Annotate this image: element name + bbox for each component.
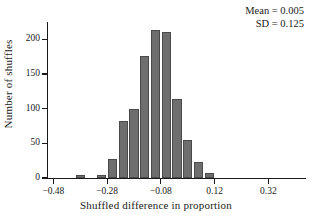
x-tick-label: 0.12 — [195, 186, 235, 196]
histogram-bar — [76, 175, 85, 178]
y-tick-label: 0 — [0, 173, 40, 183]
histogram-bar — [119, 121, 128, 178]
x-tick-mark — [160, 179, 161, 184]
x-tick-label: −0.28 — [87, 186, 127, 196]
histogram-bar — [194, 162, 203, 178]
mean-annotation: Mean = 0.005 — [245, 4, 304, 17]
histogram-bar — [205, 173, 214, 178]
histogram-bar — [108, 159, 117, 178]
x-tick-label: −0.48 — [33, 186, 73, 196]
x-tick-mark — [53, 179, 54, 184]
x-axis-title: Shuffled difference in proportion — [0, 199, 312, 211]
histogram-figure: Mean = 0.005 SD = 0.125 050100150200 −0.… — [0, 0, 312, 218]
x-tick-label: −0.08 — [141, 186, 181, 196]
histogram-bar — [151, 30, 160, 178]
histogram-bar — [172, 99, 181, 178]
histogram-bar — [97, 175, 106, 178]
x-tick-mark — [107, 179, 108, 184]
y-axis-title: Number of shuffles — [2, 24, 14, 144]
histogram-bar — [140, 56, 149, 178]
histogram-bar — [183, 140, 192, 178]
x-tick-mark — [214, 179, 215, 184]
x-tick-mark — [268, 179, 269, 184]
x-tick-label: 0.32 — [248, 186, 288, 196]
histogram-bar — [162, 32, 171, 178]
bars-container — [48, 22, 306, 178]
histogram-bar — [129, 109, 138, 178]
